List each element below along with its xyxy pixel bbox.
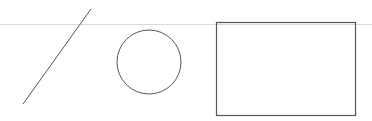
diagonal-line-shape[interactable]: [23, 9, 91, 104]
circle-shape[interactable]: [117, 30, 181, 94]
drawing-canvas: [0, 0, 372, 121]
shapes-svg: [0, 0, 372, 121]
rectangle-shape[interactable]: [217, 23, 356, 116]
